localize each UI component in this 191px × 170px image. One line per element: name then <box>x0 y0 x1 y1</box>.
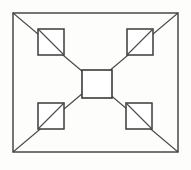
center-square <box>82 70 112 98</box>
diagram-canvas <box>0 0 191 170</box>
diagram-svg <box>0 0 191 170</box>
